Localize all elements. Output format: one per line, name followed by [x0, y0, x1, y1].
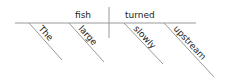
sentence-diagram: fish turned The large slowly upstream: [0, 0, 226, 78]
modifier-word-upstream: upstream: [172, 24, 209, 62]
verb-word: turned: [125, 10, 155, 20]
subject-word: fish: [75, 10, 91, 20]
modifier-line-upstream: [164, 23, 214, 77]
modifier-word-slowly: slowly: [132, 24, 159, 52]
modifier-word-the: The: [36, 23, 56, 43]
